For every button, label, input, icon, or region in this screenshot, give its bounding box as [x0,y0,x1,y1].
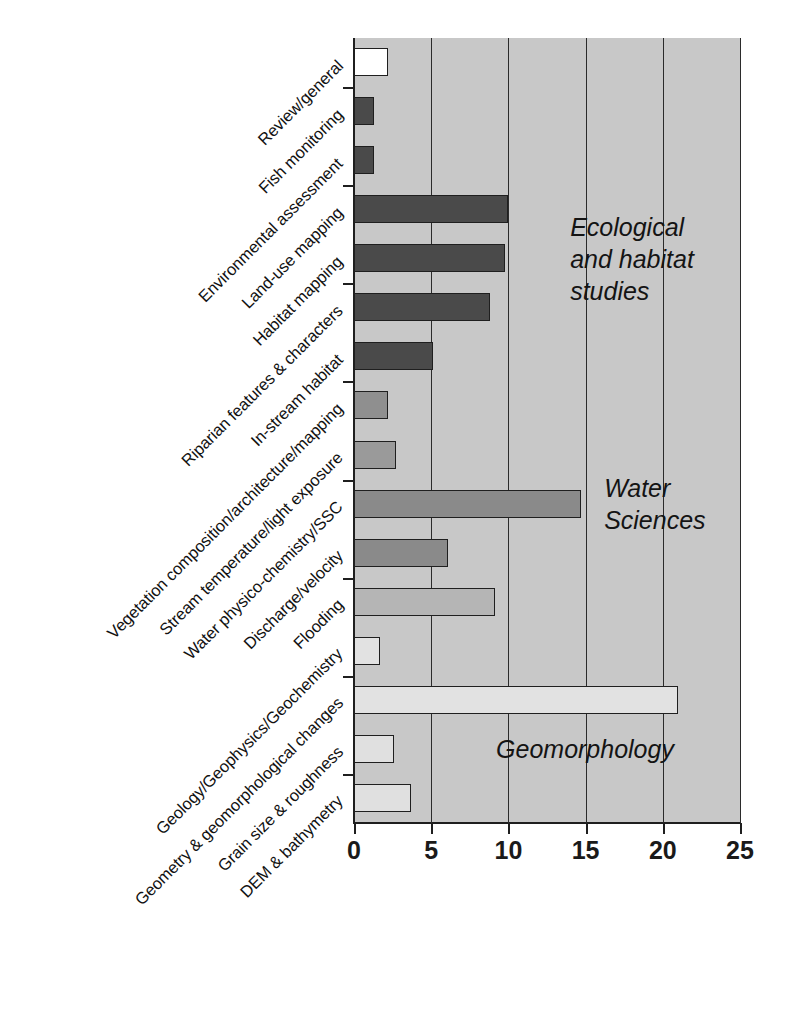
x-tick-label: 10 [478,836,538,865]
group-annotation: Ecological and habitat studies [570,211,694,307]
y-tick [343,578,354,580]
x-tick-label: 25 [710,836,770,865]
y-tick [343,381,354,383]
x-tick [431,823,433,834]
bar [354,146,374,174]
bar-row [354,774,740,823]
x-tick-label: 0 [324,836,384,865]
y-tick [343,87,354,89]
y-tick [343,185,354,187]
x-tick [740,823,742,834]
bar-row [354,136,740,185]
bar [354,244,505,272]
bar [354,637,380,665]
bar-row [354,578,740,627]
x-tick-label: 5 [401,836,461,865]
y-tick [343,774,354,776]
bar [354,588,495,616]
y-axis-label: Fish monitoring [255,105,347,197]
bar [354,686,678,714]
group-annotation: Geomorphology [496,733,674,765]
x-tick [663,823,665,834]
bar [354,735,394,763]
bar [354,195,508,223]
bar-row [354,87,740,136]
group-annotation: Water Sciences [604,472,705,536]
bar-row [354,627,740,676]
x-tick [508,823,510,834]
bar [354,784,411,812]
bar [354,539,448,567]
x-tick [354,823,356,834]
y-axis-label: Geometry & geomorphological changes [131,694,347,910]
x-tick-label: 15 [556,836,616,865]
plot-right-border [740,38,741,823]
y-tick [343,283,354,285]
y-axis-label: Review/general [254,56,347,149]
y-tick [343,480,354,482]
bar [354,391,388,419]
bar [354,441,396,469]
bar [354,342,433,370]
bar-row [354,332,740,381]
bar [354,293,490,321]
y-tick [343,676,354,678]
bar [354,490,581,518]
bar-row [354,38,740,87]
bar [354,48,388,76]
x-tick-label: 20 [633,836,693,865]
bar-row [354,381,740,430]
x-tick [586,823,588,834]
bar [354,97,374,125]
bar-row [354,676,740,725]
bar-chart-figure: Review/generalFish monitoringEnvironment… [0,0,787,1013]
